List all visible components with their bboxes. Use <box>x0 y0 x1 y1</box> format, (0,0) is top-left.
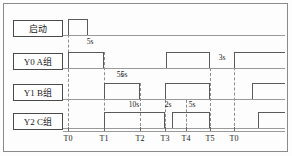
signal-pulse <box>68 52 104 68</box>
signal-pulse <box>258 112 285 128</box>
channel-label-y1: Y1 B组 <box>13 84 63 101</box>
time-marker-label: T0 <box>230 134 239 143</box>
channel-label-text: Y0 A组 <box>24 55 52 68</box>
duration-label: 2s <box>165 100 172 109</box>
time-marker-label: T2 <box>136 134 145 143</box>
time-axis-tick <box>210 127 211 131</box>
channel-label-text: 启动 <box>29 22 47 35</box>
time-axis-tick <box>68 127 69 131</box>
signal-pulse <box>252 83 285 99</box>
channel-baseline <box>63 68 285 69</box>
time-axis-tick <box>234 127 235 131</box>
channel-baseline <box>63 128 285 129</box>
signal-pulse <box>172 112 210 128</box>
time-axis-line <box>63 131 285 132</box>
signal-pulse <box>234 52 285 68</box>
time-marker-label: T0 <box>64 134 73 143</box>
channel-baseline <box>63 35 285 36</box>
signal-pulse <box>104 83 140 99</box>
time-axis-tick <box>104 127 105 131</box>
time-marker-label: T1 <box>100 134 109 143</box>
signal-pulse <box>166 52 210 68</box>
timing-diagram: 启动 Y0 A组 Y1 B组 Y2 C组 T0T1T2T3T4T5T0 5s5s… <box>0 0 292 156</box>
time-axis-tick <box>186 127 187 131</box>
duration-label: 3s <box>219 53 226 62</box>
signal-pulse <box>104 112 165 128</box>
time-gridline <box>68 20 69 131</box>
time-axis-tick <box>140 127 141 131</box>
duration-label: 5s <box>87 37 94 46</box>
signal-pulse <box>68 19 88 35</box>
time-axis-tick <box>165 127 166 131</box>
channel-label-text: Y1 B组 <box>24 86 52 99</box>
signal-pulse <box>165 83 210 99</box>
channel-label-text: Y2 C组 <box>24 115 52 128</box>
duration-label: 5s <box>189 100 196 109</box>
duration-label: 5s <box>121 70 128 79</box>
duration-label: 10s <box>129 100 139 109</box>
channel-label-start: 启动 <box>13 20 63 37</box>
time-marker-label: T5 <box>206 134 215 143</box>
channel-baseline <box>63 99 285 100</box>
time-marker-label: T3 <box>161 134 170 143</box>
channel-label-y0: Y0 A组 <box>13 53 63 70</box>
time-marker-label: T4 <box>182 134 191 143</box>
channel-label-y2: Y2 C组 <box>13 113 63 130</box>
